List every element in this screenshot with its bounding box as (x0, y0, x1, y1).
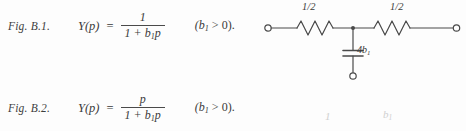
condition-operator-b1: > (209, 18, 222, 32)
fraction-denominator-b2: 1 + b1p (121, 108, 165, 124)
transfer-function-lhs-b1: Y(p) (78, 19, 100, 34)
fraction-numerator-b2: p (136, 93, 150, 107)
condition-b1: (b1 > 0). (195, 18, 235, 33)
resistor-left-icon (297, 21, 333, 35)
transfer-function-lhs-b2: Y(p) (78, 101, 100, 116)
fraction-b2: p 1 + b1p (121, 93, 165, 123)
bleedthrough-artifact-one: 1 (325, 110, 331, 122)
figure-label-b2: Fig. B.2. (0, 102, 66, 114)
condition-close-b1: 0). (222, 18, 235, 32)
denominator-part-b-b1: p (155, 26, 161, 40)
condition-b2: (b1 > 0). (195, 100, 235, 115)
condition-close-b2: 0). (222, 100, 235, 114)
circuit-diagram: 1/2 1/2 4b1 (262, 0, 466, 80)
fraction-b1: 1 1 + b1p (121, 11, 165, 41)
resistor-right-icon (374, 21, 410, 35)
fraction-denominator-b1: 1 + b1p (121, 26, 165, 42)
equals-sign-b2: = (107, 101, 114, 116)
equals-sign-b1: = (107, 19, 114, 34)
condition-operator-b2: > (209, 100, 222, 114)
formula-row-fig-b2: Fig. B.2. Y(p) = p 1 + b1p (b1 > 0). (0, 88, 280, 128)
terminal-input-icon (265, 25, 271, 31)
fraction-numerator-b1: 1 (136, 11, 150, 25)
figure-label-b1: Fig. B.1. (0, 20, 66, 32)
capacitor-subscript: 1 (367, 49, 370, 56)
capacitor-value: 4b (357, 44, 367, 55)
page-canvas: Fig. B.1. Y(p) = 1 1 + b1p (b1 > 0). Fig… (0, 0, 466, 131)
condition-open-b2: (b (195, 100, 205, 114)
denominator-part-a-b2: 1 + b (125, 108, 151, 122)
resistor-left-label: 1/2 (302, 1, 315, 12)
resistor-right-label: 1/2 (390, 1, 403, 12)
capacitor-label: 4b1 (357, 44, 370, 56)
terminal-output-icon (453, 25, 459, 31)
denominator-part-b-b2: p (155, 108, 161, 122)
denominator-part-a-b1: 1 + b (125, 26, 151, 40)
formula-row-fig-b1: Fig. B.1. Y(p) = 1 1 + b1p (b1 > 0). (0, 6, 280, 46)
terminal-ground-icon (350, 73, 356, 79)
bleedthrough-subscript: 1 (389, 113, 393, 122)
bleedthrough-artifact-two: b1 (383, 108, 392, 122)
condition-open-b1: (b (195, 18, 205, 32)
